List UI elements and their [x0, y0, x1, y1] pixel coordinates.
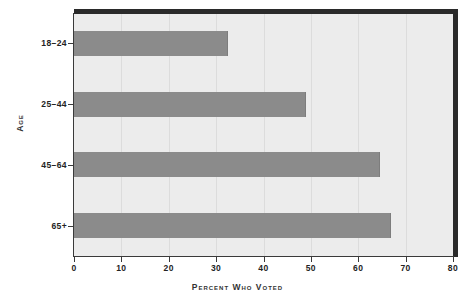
- y-axis-tick-label: 65+: [7, 221, 67, 231]
- y-axis-tick-mark: [68, 104, 74, 105]
- y-axis-tick-label: 18–24: [7, 38, 67, 48]
- y-axis-tick-label: 45–64: [7, 160, 67, 170]
- x-axis-tick-label: 70: [386, 263, 426, 273]
- y-axis-tick-label: 25–44: [7, 99, 67, 109]
- x-axis-tick-label: 10: [101, 263, 141, 273]
- y-axis-tick-mark: [68, 43, 74, 44]
- plot-frame-right: [453, 9, 458, 257]
- x-axis-tick-mark: [406, 257, 407, 262]
- y-axis-tick-labels: 18–2425–4445–6465+: [5, 0, 67, 302]
- x-axis-tick-mark: [358, 257, 359, 262]
- gridline: [406, 13, 407, 256]
- x-axis-tick-label: 80: [433, 263, 473, 273]
- x-axis-tick-mark: [74, 257, 75, 262]
- bar: [74, 92, 306, 117]
- y-axis-tick-mark: [68, 165, 74, 166]
- x-axis-tick-label: 60: [338, 263, 378, 273]
- x-axis-tick-mark: [264, 257, 265, 262]
- x-axis-tick-mark: [453, 257, 454, 262]
- bar: [74, 31, 228, 56]
- x-axis-tick-mark: [169, 257, 170, 262]
- plot-frame-left: [73, 13, 74, 257]
- x-axis-tick-mark: [121, 257, 122, 262]
- plot-frame-top: [74, 9, 458, 14]
- bar-chart-figure: Age 18–2425–4445–6465+ Percent Who Voted…: [0, 0, 475, 302]
- x-axis-tick-mark: [216, 257, 217, 262]
- x-axis-title: Percent Who Voted: [0, 282, 475, 292]
- x-axis-tick-label: 50: [291, 263, 331, 273]
- x-axis-tick-label: 40: [244, 263, 284, 273]
- y-axis-tick-mark: [68, 226, 74, 227]
- x-axis-tick-label: 30: [196, 263, 236, 273]
- bar: [74, 152, 380, 177]
- x-axis-tick-mark: [311, 257, 312, 262]
- x-axis-tick-label: 20: [149, 263, 189, 273]
- plot-area: [74, 13, 453, 256]
- bar: [74, 213, 391, 238]
- x-axis-tick-label: 0: [54, 263, 94, 273]
